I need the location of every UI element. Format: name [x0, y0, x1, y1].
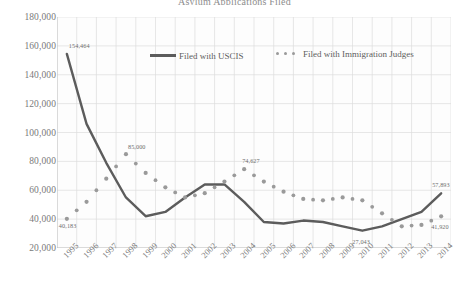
y-axis-tick-label: 80,000: [4, 156, 56, 166]
y-axis-tick-label: 40,000: [4, 214, 56, 224]
chart-container: Asylum Applications Filed 180,000160,000…: [0, 0, 469, 305]
legend-item-immigration-judges: Filed with Immigration Judges: [274, 49, 414, 59]
y-axis-tick-label: 120,000: [4, 99, 56, 109]
chart-legend: Filed with USCIS Filed with Immigration …: [150, 49, 414, 61]
y-axis-labels: 180,000160,000140,000120,000100,00080,00…: [0, 0, 56, 305]
y-axis-tick-label: 100,000: [4, 128, 56, 138]
chart-title: Asylum Applications Filed: [0, 0, 469, 5]
y-axis-tick-label: 60,000: [4, 185, 56, 195]
y-axis-tick-label: 160,000: [4, 41, 56, 51]
data-point-label: 74,627: [242, 157, 260, 164]
data-point-label: 154,464: [69, 42, 90, 49]
y-axis-tick-label: 20,000: [4, 243, 56, 253]
y-axis-tick-label: 140,000: [4, 70, 56, 80]
y-axis-tick-label: 180,000: [4, 12, 56, 22]
data-point-label: 40,183: [59, 222, 77, 229]
legend-label-immigration-judges: Filed with Immigration Judges: [303, 49, 414, 59]
data-point-label: 57,893: [432, 181, 450, 188]
legend-label-uscis: Filed with USCIS: [179, 51, 244, 61]
data-point-label: 27,043: [352, 238, 370, 245]
data-point-label: 41,920: [431, 223, 449, 230]
legend-item-uscis: Filed with USCIS: [150, 51, 244, 61]
legend-dotted-line-icon: [274, 51, 300, 57]
legend-solid-line-icon: [150, 54, 176, 57]
data-point-label: 85,000: [128, 143, 146, 150]
